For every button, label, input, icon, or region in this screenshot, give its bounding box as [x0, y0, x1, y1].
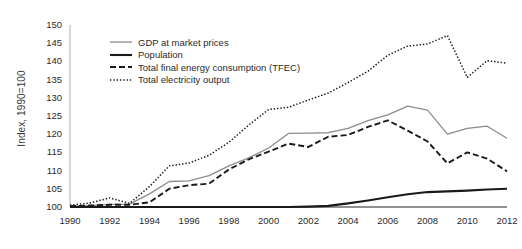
x-tick-label: 1994 — [129, 216, 169, 226]
y-tick-label: 120 — [32, 129, 62, 139]
y-tick-label: 115 — [32, 147, 62, 157]
x-tick-label: 2010 — [447, 216, 487, 226]
legend-item: Total final energy consumption (TFEC) — [110, 61, 340, 74]
legend-label: Population — [138, 50, 183, 60]
x-tick-label: 1990 — [50, 216, 90, 226]
x-tick-label: 2012 — [487, 216, 522, 226]
y-tick-label: 125 — [32, 111, 62, 121]
legend-item: Population — [110, 49, 340, 62]
line-key-solid-thin — [110, 37, 132, 47]
line-key-dotted — [110, 75, 132, 85]
x-tick-label: 2008 — [408, 216, 448, 226]
x-tick-label: 2002 — [288, 216, 328, 226]
x-tick-label: 1992 — [90, 216, 130, 226]
y-tick-label: 105 — [32, 184, 62, 194]
legend-label: Total final energy consumption (TFEC) — [138, 63, 300, 73]
y-tick-label: 140 — [32, 56, 62, 66]
x-tick-label: 2000 — [249, 216, 289, 226]
y-tick-label: 130 — [32, 93, 62, 103]
legend-item: Total electricity output — [110, 74, 340, 87]
y-tick-label: 150 — [32, 20, 62, 30]
x-tick-label: 1998 — [209, 216, 249, 226]
x-tick-label: 2004 — [328, 216, 368, 226]
line-key-solid-thick — [110, 50, 132, 60]
x-tick-label: 1996 — [169, 216, 209, 226]
x-axis-tick-labels: 1990199219941996199820002002200420062008… — [0, 212, 517, 236]
chart-legend: GDP at market pricesPopulationTotal fina… — [110, 36, 340, 86]
legend-label: GDP at market prices — [138, 38, 229, 48]
legend-label: Total electricity output — [138, 75, 229, 85]
line-key-dash-dot — [110, 62, 132, 72]
y-axis-title: Index, 1990=100 — [16, 39, 27, 179]
y-tick-label: 135 — [32, 75, 62, 85]
y-tick-label: 110 — [32, 166, 62, 176]
y-tick-label: 145 — [32, 38, 62, 48]
y-tick-label: 100 — [32, 202, 62, 212]
x-tick-label: 2006 — [368, 216, 408, 226]
legend-item: GDP at market prices — [110, 36, 340, 49]
